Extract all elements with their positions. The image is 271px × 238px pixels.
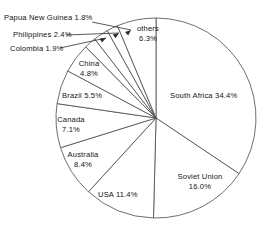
slice-label-australia: Australia 8.4% <box>59 150 107 169</box>
slice-label-china-name: China <box>70 59 108 69</box>
slice-label-soviet-union-name: Soviet Union <box>167 172 233 182</box>
slice-label-colombia: Colombia 1.9% <box>10 44 63 54</box>
slice-label-others-pct: 6.3% <box>127 34 169 44</box>
pie-chart: Papua New Guinea 1.8% Philippines 2.4% C… <box>0 0 271 238</box>
slice-label-philippines: Philippines 2.4% <box>13 30 72 40</box>
slice-label-south-africa: South Africa 34.4% <box>170 91 237 101</box>
slice-label-china-pct: 4.8% <box>70 69 108 79</box>
slice-label-canada-name: Canada <box>49 115 93 125</box>
slice-label-australia-pct: 8.4% <box>59 160 107 170</box>
slice-label-china: China 4.8% <box>70 59 108 78</box>
slice-label-soviet-union-pct: 16.0% <box>167 182 233 192</box>
slice-label-soviet-union: Soviet Union 16.0% <box>167 172 233 191</box>
slice-label-others-name: others <box>127 24 169 34</box>
slice-label-australia-name: Australia <box>59 150 107 160</box>
slice-label-usa: USA 11.4% <box>98 190 138 200</box>
slice-label-brazil: Brazil 5.5% <box>62 91 102 101</box>
slice-label-canada-pct: 7.1% <box>49 125 93 135</box>
slice-label-others: others 6.3% <box>127 24 169 43</box>
slice-label-canada: Canada 7.1% <box>49 115 93 134</box>
slice-label-papua-new-guinea: Papua New Guinea 1.8% <box>4 13 92 23</box>
